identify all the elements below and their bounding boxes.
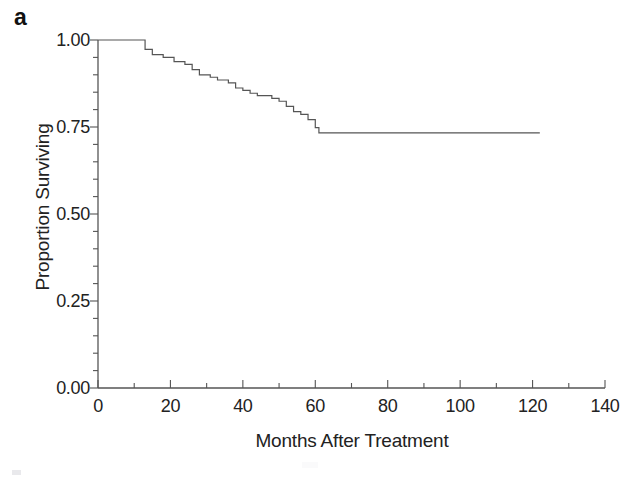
scan-artifact-mark-secondary <box>302 462 318 468</box>
scan-artifact-mark <box>12 470 21 475</box>
survival-curve-line <box>98 40 540 133</box>
plot-area <box>0 0 627 483</box>
survival-curve-figure: a Proportion Surviving Months After Trea… <box>0 0 627 483</box>
axes <box>90 40 605 388</box>
data-series <box>98 40 540 133</box>
